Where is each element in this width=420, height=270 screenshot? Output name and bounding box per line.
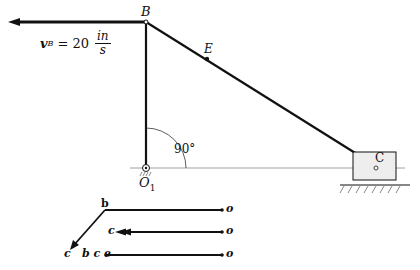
pivot-letter: O (139, 175, 150, 190)
velocity-polygon-2 (115, 229, 224, 236)
poly2-c-label: c (108, 224, 115, 237)
velocity-polygon-3 (104, 253, 223, 257)
velocity-label: vB = 20 in s (40, 30, 111, 57)
velocity-vector-b (8, 18, 146, 26)
velocity-polygon-1 (70, 208, 224, 250)
poly1-b-label: b (101, 197, 109, 210)
pin-b (144, 20, 148, 24)
point-e (205, 57, 209, 61)
pivot-label: O1 (139, 175, 155, 193)
poly3-bce-label: b c e (82, 247, 111, 260)
poly2-o-label: o (226, 224, 233, 237)
unit-numerator: in (95, 30, 111, 44)
velocity-symbol: v (40, 36, 48, 51)
unit-denominator: s (100, 44, 106, 57)
poly1-c-label: c (64, 247, 71, 260)
velocity-subscript: B (48, 39, 54, 48)
label-b: B (141, 4, 151, 19)
label-c: C (375, 151, 384, 165)
velocity-value: = 20 (57, 36, 89, 51)
poly1-o-label: o (226, 202, 233, 215)
velocity-unit: in s (95, 30, 111, 57)
angle-label: 90° (174, 142, 195, 156)
label-e: E (204, 42, 213, 56)
ground-hatch (340, 185, 410, 193)
pivot-subscript: 1 (150, 183, 156, 193)
poly3-o-label: o (226, 247, 233, 260)
